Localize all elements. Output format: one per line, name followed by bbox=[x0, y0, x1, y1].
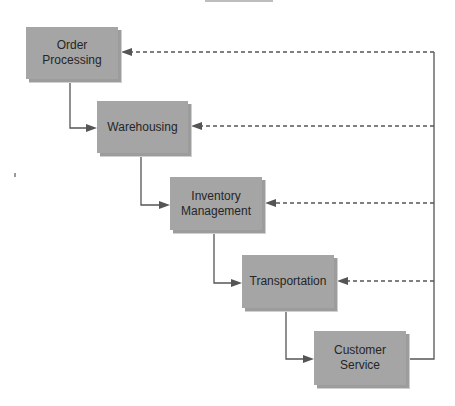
arrow-left-icon bbox=[121, 48, 132, 56]
flow-line-transportation-to-customer-service bbox=[286, 311, 308, 359]
box-label: Order Processing bbox=[26, 27, 118, 79]
box-label: Warehousing bbox=[97, 101, 188, 153]
arrow-right-icon bbox=[159, 201, 170, 209]
box-label: Customer Service bbox=[314, 331, 406, 385]
flow-line-warehousing-to-inventory-management bbox=[141, 156, 164, 205]
box-label: Inventory Management bbox=[170, 177, 262, 230]
arrow-right-icon bbox=[86, 124, 97, 132]
box-label: Transportation bbox=[242, 255, 334, 308]
arrow-left-icon bbox=[265, 199, 276, 207]
arrow-left-icon bbox=[337, 277, 348, 285]
feedback-return-line bbox=[406, 52, 434, 359]
arrow-left-icon bbox=[191, 122, 202, 130]
arrow-right-icon bbox=[231, 279, 242, 287]
flow-line-order-processing-to-warehousing bbox=[70, 82, 91, 128]
flow-line-inventory-management-to-transportation bbox=[214, 233, 236, 283]
arrow-right-icon bbox=[303, 355, 314, 363]
